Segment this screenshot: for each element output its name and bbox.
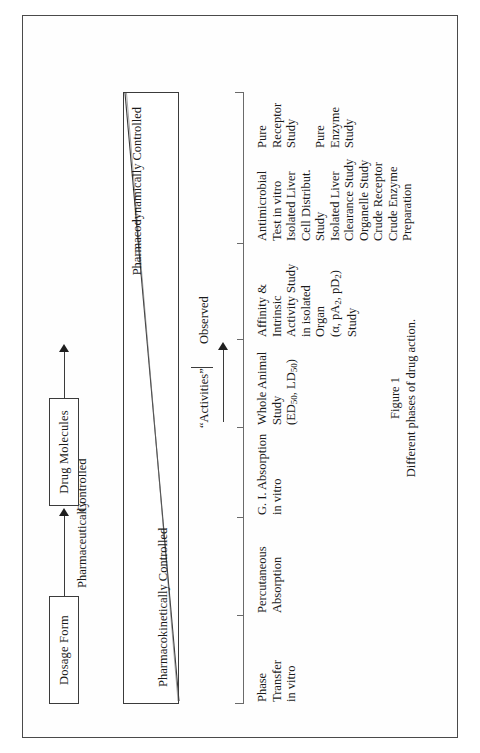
- column-affinity-intrinsic-activity: Affinity &IntrinsicActivity Studyin isol…: [255, 263, 360, 336]
- axis-endcap-left: [235, 703, 244, 704]
- box-drug-molecules: Drug Molecules: [49, 398, 79, 506]
- axis-tick-2: [237, 517, 244, 518]
- page-border-frame: Dosage Form Pharmaceutically Controlled …: [22, 15, 458, 738]
- axis-tick-5: [237, 243, 244, 244]
- arrowhead-drug-to-phases: [59, 344, 69, 352]
- column-line: Percutaneous: [255, 546, 270, 613]
- column-line: in isolated: [299, 263, 314, 336]
- column-line: [299, 102, 314, 147]
- label-pharmacokinetically-controlled: Pharmacokinetically Controlled: [156, 527, 171, 686]
- figure-rotation-wrapper: Dosage Form Pharmaceutically Controlled …: [23, 16, 459, 739]
- column-line: in vitro: [284, 660, 299, 702]
- column-line: G. I. Absorption: [255, 433, 270, 514]
- axis-tick-1: [237, 615, 244, 616]
- column-line: Study: [284, 102, 299, 147]
- column-line: Crude Receptor: [371, 158, 386, 240]
- column-phase-transfer: PhaseTransferin vitro: [255, 660, 299, 702]
- column-line: Isolated Liver: [328, 158, 343, 240]
- column-line: Absorption: [270, 546, 285, 613]
- column-line: Phase: [255, 660, 270, 702]
- label-pharmaceutically: Pharmaceutically: [75, 501, 90, 588]
- column-line: Isolated Liver: [284, 158, 299, 240]
- figure-caption: Figure 1 Different phases of drug action…: [387, 218, 419, 578]
- axis-tick-4: [237, 339, 244, 340]
- column-line: Test in vitro: [270, 158, 285, 240]
- column-line: Receptor: [270, 102, 285, 147]
- arrowhead-dosage-to-drug: [59, 508, 69, 516]
- phases-triangle-box: Pharmacokinetically Controlled Pharmacod…: [123, 92, 179, 704]
- figure-canvas: Dosage Form Pharmaceutically Controlled …: [31, 28, 451, 728]
- column-line: Transfer: [270, 660, 285, 702]
- column-whole-animal-study: Whole AnimalStudy(ED50, LD50): [255, 351, 302, 424]
- column-line: (ED50, LD50): [284, 351, 302, 424]
- connector-dosage-to-drug: [64, 514, 65, 596]
- figure-caption-text: Different phases of drug action.: [403, 218, 419, 578]
- column-line: Whole Animal: [255, 351, 270, 424]
- label-pharmacodynamically-controlled: Pharmacodynamically Controlled: [130, 107, 145, 275]
- axis-endcap-right: [235, 92, 244, 93]
- column-line: Study: [345, 263, 360, 336]
- column-gi-absorption: G. I. Absorptionin vitro: [255, 433, 284, 514]
- column-line: Enzyme: [328, 102, 343, 147]
- column-line: Intrinsic: [270, 263, 285, 336]
- column-line: Activity Study: [284, 263, 299, 336]
- column-line: (α, pA2, pD2): [328, 263, 346, 336]
- column-line: Affinity &: [255, 263, 270, 336]
- column-line: Cell Distribut.: [299, 158, 314, 240]
- axis-tick-3: [237, 427, 244, 428]
- column-line: Clearance Study: [342, 158, 357, 240]
- column-line: Antimicrobial: [255, 158, 270, 240]
- activities-observed-divider: [191, 367, 213, 368]
- column-line: Study: [270, 351, 285, 424]
- column-line: Study: [313, 158, 328, 240]
- column-percutaneous-absorption: PercutaneousAbsorption: [255, 546, 284, 613]
- activities-observed-row: “Activities” Observed: [197, 296, 212, 428]
- column-line: in vitro: [270, 433, 285, 514]
- figure-caption-number: Figure 1: [387, 218, 403, 578]
- arrowhead-activities: [218, 342, 228, 350]
- column-line: Study: [342, 102, 357, 147]
- label-activities: “Activities”: [197, 368, 211, 428]
- column-line: Organ: [313, 263, 328, 336]
- column-line: Pure: [313, 102, 328, 147]
- connector-activities-down: [223, 348, 224, 422]
- connector-drug-to-phases: [64, 350, 65, 398]
- column-line: Organelle Study: [357, 158, 372, 240]
- column-line: Pure: [255, 102, 270, 147]
- box-dosage-form: Dosage Form: [49, 596, 79, 704]
- column-pure-receptor-enzyme: PureReceptorStudy PureEnzymeStudy: [255, 102, 357, 147]
- phases-axis-line: [243, 92, 244, 704]
- label-observed: Observed: [197, 296, 211, 344]
